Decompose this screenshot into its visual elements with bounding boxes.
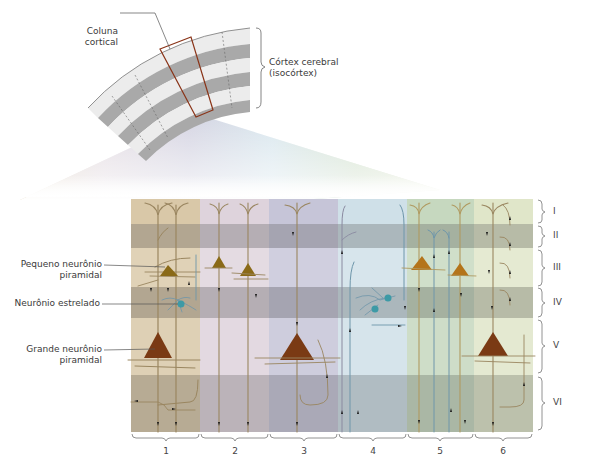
small-pyramidal-neuron-label: Pequeno neurônio piramidal [0, 259, 102, 281]
cerebral-cortex-label: Córtex cerebral (isocórtex) [269, 57, 339, 79]
layer-label-iv: IV [553, 297, 562, 307]
large-pyramidal-label-line1: Grande neurônio [0, 344, 102, 355]
stellate-neuron [385, 295, 392, 302]
projection-fan [0, 115, 589, 200]
small-pyramidal-label-line1: Pequeno neurônio [0, 259, 102, 270]
layer-overlays [131, 224, 533, 432]
cortex-brace [256, 28, 265, 108]
column-number-1: 1 [156, 446, 176, 456]
column-number-3: 3 [294, 446, 314, 456]
stellate-neuron [372, 306, 379, 313]
layer-label-vi: VI [553, 397, 562, 407]
small-pyramidal-label-line2: piramidal [0, 270, 102, 281]
column-number-2: 2 [225, 446, 245, 456]
column-braces [132, 434, 532, 441]
stellate-neuron-label: Neurônio estrelado [0, 298, 100, 309]
large-pyramidal-label-line2: piramidal [0, 355, 102, 366]
column-number-4: 4 [363, 446, 383, 456]
cortical-column-label-line1: Coluna [70, 26, 118, 37]
cerebral-cortex-label-line2: (isocórtex) [269, 68, 339, 79]
column-number-6: 6 [493, 446, 513, 456]
layer-label-v: V [553, 340, 559, 350]
cerebral-cortex-label-line1: Córtex cerebral [269, 57, 339, 68]
layer-label-i: I [553, 206, 556, 216]
layer-label-ii: II [553, 230, 558, 240]
cortical-column-label-line2: cortical [70, 37, 118, 48]
stellate-neuron [178, 301, 185, 308]
layer-braces [538, 200, 545, 430]
large-pyramidal-neuron-label: Grande neurônio piramidal [0, 344, 102, 366]
cortical-column-label: Coluna cortical [70, 26, 118, 48]
column-number-5: 5 [430, 446, 450, 456]
layer-label-iii: III [553, 262, 561, 272]
